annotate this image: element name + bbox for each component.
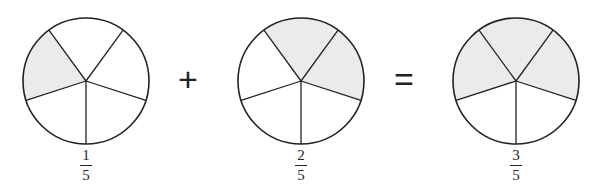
pie-one-fifth — [23, 18, 149, 144]
pie-three-fifths — [453, 18, 579, 144]
numerator: 1 — [71, 148, 101, 165]
denominator: 5 — [286, 166, 316, 183]
numerator: 2 — [286, 148, 316, 165]
spoke-line — [86, 81, 146, 100]
denominator: 5 — [501, 166, 531, 183]
fraction-label-two-fifths: 2 5 — [286, 148, 316, 183]
denominator: 5 — [71, 166, 101, 183]
numerator: 3 — [501, 148, 531, 165]
pie-two-fifths — [238, 18, 364, 144]
spoke-line — [86, 30, 123, 81]
equals-sign: = — [394, 62, 414, 96]
fraction-label-three-fifths: 3 5 — [501, 148, 531, 183]
spoke-line — [241, 81, 301, 100]
fraction-label-one-fifth: 1 5 — [71, 148, 101, 183]
plus-sign: + — [178, 62, 198, 96]
shaded-slice — [23, 30, 86, 100]
